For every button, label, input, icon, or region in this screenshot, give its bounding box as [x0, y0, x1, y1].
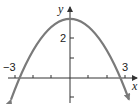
x-tick-label-neg3: −3	[3, 61, 16, 73]
x-tick-label-3: 3	[122, 61, 128, 73]
parabola-graph: y x −3 3 2	[0, 0, 140, 104]
y-tick-label-2: 2	[60, 32, 66, 44]
y-ticks	[70, 38, 74, 97]
x-axis-label: x	[131, 79, 138, 93]
y-axis-label: y	[57, 2, 64, 16]
